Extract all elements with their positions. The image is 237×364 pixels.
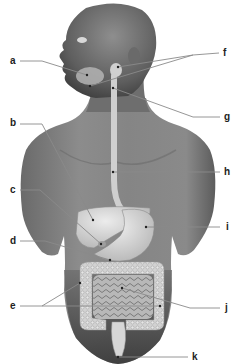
label-c: c [10, 185, 16, 195]
label-f: f [223, 48, 226, 58]
label-b: b [10, 118, 16, 128]
label-g: g [224, 112, 230, 122]
digestive-system-diagram: a b c d e f g h i j k [0, 0, 237, 364]
head-shape [60, 3, 157, 98]
label-h: h [224, 167, 230, 177]
diagram-canvas [0, 0, 237, 364]
small-intestine [93, 275, 153, 319]
head [60, 3, 157, 98]
label-d: d [10, 236, 16, 246]
salivary-gland [76, 67, 104, 85]
label-k: k [192, 352, 198, 362]
label-e: e [10, 301, 16, 311]
label-j: j [225, 303, 228, 313]
label-a: a [10, 56, 16, 66]
eye [77, 37, 87, 43]
ear [128, 47, 140, 65]
label-i: i [226, 222, 229, 232]
